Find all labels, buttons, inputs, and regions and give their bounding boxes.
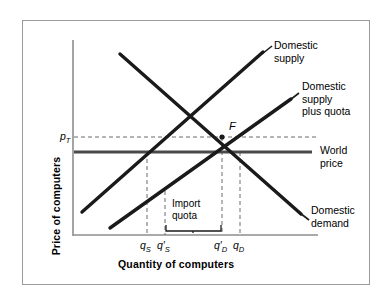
label-supply-plus-quota-line1: Domestic <box>302 80 350 93</box>
price-tariff-label: pT <box>60 130 70 145</box>
label-domestic-supply-plus-quota: Domestic supply plus quota <box>302 80 350 118</box>
leader-domestic-demand <box>300 213 309 220</box>
label-domestic-demand: Domestic demand <box>311 204 355 229</box>
x-axis-title: Quantity of computers <box>118 258 234 270</box>
domestic-supply-curve <box>82 52 263 212</box>
x-tick-label-qd: qD <box>233 239 244 254</box>
label-world-price-line2: price <box>320 157 347 170</box>
label-domestic-demand-line2: demand <box>311 217 355 230</box>
leader-domestic-supply <box>262 46 272 54</box>
x-tick-label-qs-prime: q′S <box>157 239 170 254</box>
import-quota-label: Import quota <box>172 198 200 222</box>
equilibrium-point-marker <box>219 134 224 139</box>
label-supply-plus-quota-line3: plus quota <box>302 105 350 118</box>
x-tick-label-qs: qS <box>140 239 151 254</box>
label-domestic-supply-line2: supply <box>274 52 318 65</box>
label-world-price: World price <box>320 144 347 169</box>
leader-supply-plus-quota <box>290 93 299 100</box>
label-supply-plus-quota-line2: supply <box>302 93 350 106</box>
import-quota-bracket <box>166 225 221 233</box>
import-quota-line1: Import <box>172 198 200 210</box>
y-axis-title: Price of computers <box>50 157 62 256</box>
label-world-price-line1: World <box>320 144 347 157</box>
price-tariff-subscript: T <box>66 136 71 145</box>
x-tick-label-qd-prime: q′D <box>214 239 227 254</box>
y-axis-title-container: Price of computers <box>40 60 62 230</box>
label-domestic-demand-line1: Domestic <box>311 204 355 217</box>
label-domestic-supply-line1: Domestic <box>274 39 318 52</box>
import-quota-line2: quota <box>172 210 200 222</box>
figure-root: Price of computers Quantity of computers… <box>0 0 389 306</box>
equilibrium-point-label: F <box>229 120 236 132</box>
label-domestic-supply: Domestic supply <box>274 39 318 64</box>
